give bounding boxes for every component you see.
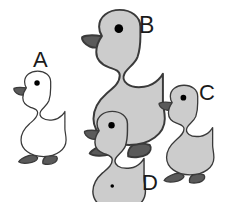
duck-a[interactable] (10, 70, 70, 167)
duck-eye-icon (108, 122, 114, 128)
duck-body-icon (93, 111, 146, 202)
duck-foot-back-icon (19, 155, 38, 163)
duck-foot-back-icon (164, 173, 184, 181)
duck-eye-icon (34, 80, 39, 85)
duck-label-d: D (142, 172, 158, 194)
duck-eye-icon (181, 95, 187, 101)
duck-label-c: C (199, 82, 215, 104)
duck-label-a: A (33, 49, 48, 71)
duck-d[interactable] (80, 110, 150, 202)
duck-illustration-scene: ABCD (0, 0, 231, 202)
duck-eye-icon (114, 24, 123, 33)
duck-body-dot-icon (110, 184, 114, 188)
duck-label-b: B (139, 14, 154, 37)
duck-body-icon (21, 71, 66, 156)
